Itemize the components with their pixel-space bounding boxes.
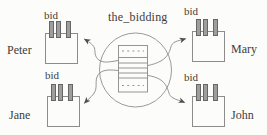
pin-icon xyxy=(68,84,73,101)
pin-icon xyxy=(66,21,71,38)
john-bid-box xyxy=(192,96,225,127)
peter-bid-label: bid xyxy=(44,10,58,21)
pin-icon xyxy=(58,84,63,101)
mary-bid-label: bid xyxy=(184,6,198,17)
mary-name-label: Mary xyxy=(231,43,257,55)
pin-icon xyxy=(203,19,208,36)
jane-bid-label: bid xyxy=(45,70,59,81)
peter-bid-box xyxy=(45,33,78,64)
pin-icon xyxy=(203,84,208,101)
john-name-label: John xyxy=(231,109,254,121)
bid-list-outline xyxy=(119,46,148,93)
john-bid-label: bid xyxy=(184,72,198,83)
pin-icon xyxy=(213,84,218,101)
bid-list-record xyxy=(119,46,148,93)
peter-name-label: Peter xyxy=(7,44,32,56)
pin-icon xyxy=(49,21,54,38)
pin-icon xyxy=(196,84,201,101)
pin-icon xyxy=(196,19,201,36)
jane-bid-box xyxy=(47,96,80,127)
jane-name-label: Jane xyxy=(9,109,30,121)
bidding-diagram: the_bidding bid Peter bid Mary bid Jane … xyxy=(0,0,267,135)
center-label: the_bidding xyxy=(108,11,168,23)
pin-icon xyxy=(51,84,56,101)
mary-bid-box xyxy=(192,31,225,62)
arrow-to-jane-bid xyxy=(85,70,119,103)
pin-icon xyxy=(56,21,61,38)
pin-icon xyxy=(213,19,218,36)
